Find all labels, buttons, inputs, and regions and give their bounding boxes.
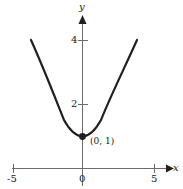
plot-canvas — [0, 0, 183, 189]
x-tick-label-0: 0 — [79, 174, 85, 184]
parabola-curve — [31, 40, 137, 137]
y-tick-label-2: 2 — [71, 99, 77, 109]
x-axis-label: x — [173, 163, 179, 173]
y-axis-arrowhead — [79, 15, 87, 24]
vertex-dot-marker — [79, 133, 86, 140]
vertex-point-label: (0, 1) — [90, 137, 114, 146]
graph-figure: y x 4 2 -5 0 5 (0, 1) — [0, 0, 183, 189]
y-axis-label: y — [79, 2, 85, 12]
x-tick-label-5: 5 — [151, 174, 157, 184]
y-tick-label-4: 4 — [71, 35, 77, 45]
x-tick-label-neg5: -5 — [7, 174, 17, 184]
